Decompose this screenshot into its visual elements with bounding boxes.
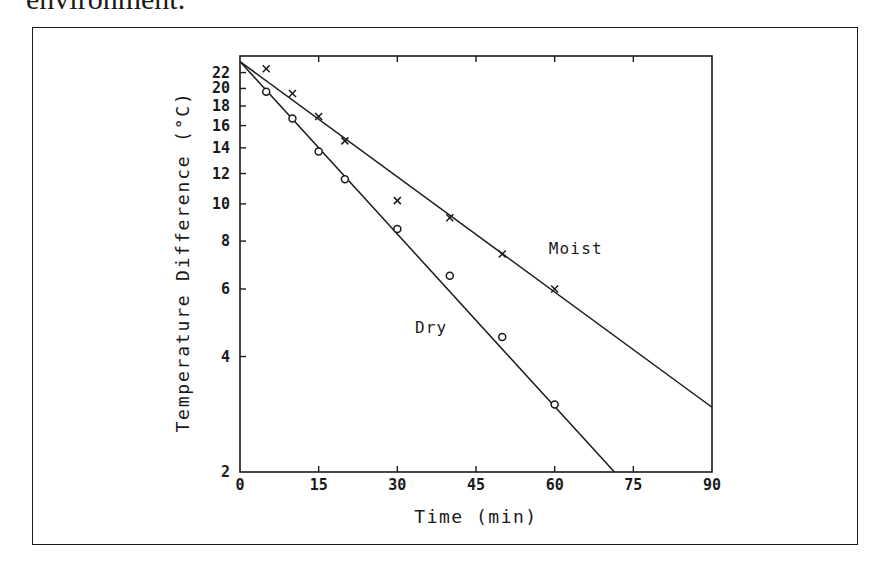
circle-marker-dry [499,333,506,340]
x-tick-label: 90 [703,476,721,494]
x-marker-moist [499,251,506,258]
plot-border [240,56,712,472]
x-tick-label: 0 [235,476,244,494]
series-label-dry: Dry [415,318,448,337]
series-labels: MoistDry [415,239,603,337]
y-tick-label: 22 [212,64,230,82]
x-tick-label: 30 [388,476,406,494]
circle-marker-dry [341,176,348,183]
circle-marker-dry [315,148,322,155]
y-tick-label: 20 [212,79,230,97]
y-axis: 246810121416182022 [212,64,246,481]
y-tick-label: 18 [212,97,230,115]
circle-marker-dry [551,401,558,408]
x-marker-moist [289,90,296,97]
x-marker-moist [394,197,401,204]
y-tick-label: 4 [221,348,230,366]
circle-marker-dry [289,115,296,122]
series-label-moist: Moist [549,239,603,258]
y-tick-label: 12 [212,165,230,183]
plot-area [240,56,712,472]
chart: 0153045607590 246810121416182022 MoistDr… [0,0,885,575]
circle-marker-dry [263,88,270,95]
y-axis-label: Temperature Difference (°C) [172,91,193,432]
y-tick-label: 2 [221,463,230,481]
circle-marker-dry [446,272,453,279]
data-markers [263,65,558,408]
x-axis-label: Time (min) [414,506,537,527]
x-tick-label: 15 [310,476,328,494]
y-tick-label: 14 [212,139,230,157]
x-tick-label: 60 [546,476,564,494]
circle-marker-dry [394,226,401,233]
x-tick-label: 45 [467,476,485,494]
fit-lines [240,62,712,472]
y-tick-label: 6 [221,280,230,298]
x-axis: 0153045607590 [235,56,721,494]
x-marker-moist [263,65,270,72]
y-tick-label: 8 [221,232,230,250]
fit-line-dry [240,62,614,472]
fit-line-moist [240,62,712,408]
y-tick-label: 16 [212,117,230,135]
y-tick-label: 10 [212,195,230,213]
x-tick-label: 75 [624,476,642,494]
